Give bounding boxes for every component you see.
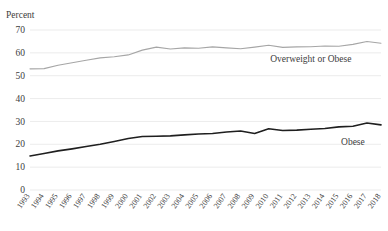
x-tick-label: 2015 [324, 192, 341, 210]
x-tick-label: 2000 [113, 192, 130, 210]
y-tick-label: 30 [16, 117, 26, 127]
x-tick-label: 2018 [366, 192, 383, 210]
x-axis-tick-labels: 1993199419951996199719981999200020012002… [15, 192, 383, 210]
x-tick-label: 2017 [352, 192, 369, 210]
series-line-obese [30, 123, 381, 156]
y-tick-label: 20 [16, 139, 26, 149]
series-label-overweight-or-obese: Overweight or Obese [270, 54, 351, 64]
x-tick-label: 1996 [57, 192, 74, 210]
series-annotations: Overweight or ObeseObese [270, 54, 365, 147]
x-tick-label: 1994 [29, 192, 46, 210]
x-tick-label: 2016 [338, 192, 355, 210]
x-tick-label: 1997 [71, 192, 88, 210]
x-tick-label: 2010 [254, 192, 271, 210]
x-tick-label: 2011 [268, 192, 284, 210]
x-tick-label: 2007 [212, 192, 229, 210]
x-tick-label: 1998 [85, 192, 102, 210]
x-tick-label: 2002 [141, 192, 158, 210]
x-tick-label: 2005 [184, 192, 201, 210]
x-tick-label: 1995 [43, 192, 60, 210]
y-axis-title: Percent [6, 10, 35, 20]
x-tick-label: 2009 [240, 192, 257, 210]
x-tick-label: 2013 [296, 192, 313, 210]
y-tick-label: 60 [16, 48, 26, 58]
y-tick-label: 70 [16, 25, 26, 35]
line-chart: 010203040506070 199319941995199619971998… [0, 0, 388, 231]
chart-container: 010203040506070 199319941995199619971998… [0, 0, 388, 231]
y-tick-label: 40 [16, 94, 26, 104]
series-label-obese: Obese [341, 137, 365, 147]
x-tick-label: 2001 [127, 192, 144, 210]
x-tick-label: 2014 [310, 192, 327, 210]
y-tick-label: 50 [16, 71, 26, 81]
x-tick-label: 2004 [170, 192, 187, 210]
x-tick-label: 2008 [226, 192, 243, 210]
x-tick-label: 2006 [198, 192, 215, 210]
x-tick-label: 2012 [282, 192, 299, 210]
x-tick-label: 1999 [99, 192, 116, 210]
y-axis-tick-labels: 010203040506070 [16, 25, 26, 195]
x-tick-label: 2003 [155, 192, 172, 210]
y-tick-label: 10 [16, 162, 26, 172]
x-tick-label: 1993 [15, 192, 32, 210]
